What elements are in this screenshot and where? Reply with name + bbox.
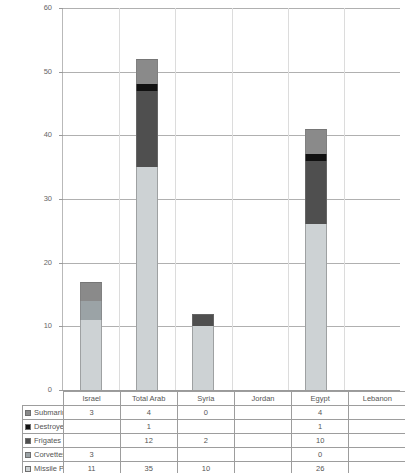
table-head: IsraelTotal ArabSyriaJordanEgyptLebanon [23, 392, 405, 406]
table-cell [234, 448, 291, 462]
y-axis: 0102030405060 [0, 0, 58, 395]
table-row: Corvettes30 [23, 448, 405, 462]
y-tick-label-30: 30 [44, 195, 52, 203]
table-cell: 1 [292, 420, 349, 434]
bar-egypt [305, 129, 327, 390]
bar-syria [192, 314, 214, 390]
legend-swatch-icon [25, 410, 31, 416]
table-cell [349, 420, 405, 434]
table-row: Frigates12210 [23, 434, 405, 448]
y-tick-label-20: 20 [44, 259, 52, 267]
table-cell: 0 [177, 406, 234, 420]
legend-cell-frigates: Frigates [23, 434, 64, 448]
table-cell [349, 462, 405, 473]
table-cell: 2 [177, 434, 234, 448]
table-cell: 35 [120, 462, 177, 473]
bar-segment-missile-patrol [136, 167, 158, 390]
bar-segment-frigates [136, 91, 158, 167]
legend-series-label: Destroyers [34, 422, 63, 431]
legend-swatch-icon [25, 466, 31, 472]
table-cell: 3 [63, 448, 120, 462]
table-cell [234, 406, 291, 420]
plot-area [62, 8, 400, 390]
stacked-bar-chart: 0102030405060 [0, 0, 405, 395]
bar-segment-submarines [136, 59, 158, 84]
legend-swatch-icon [25, 452, 31, 458]
table-cell: 4 [120, 406, 177, 420]
category-separator-2 [175, 8, 176, 390]
chart-page: 0102030405060 IsraelTotal ArabSyriaJorda… [0, 0, 405, 473]
category-separator-1 [119, 8, 120, 390]
table-row: Destroyers11 [23, 420, 405, 434]
legend-series-label: Missile Patrol [34, 464, 63, 473]
table-cell [349, 434, 405, 448]
bar-segment-missile-patrol [192, 326, 214, 390]
legend-cell-missile-patrol: Missile Patrol [23, 462, 64, 473]
table-cell: 1 [120, 420, 177, 434]
table-cell: 12 [120, 434, 177, 448]
y-tick-label-40: 40 [44, 131, 52, 139]
y-tick-40 [59, 135, 63, 136]
bar-segment-missile-patrol [80, 320, 102, 390]
table-cell [63, 420, 120, 434]
legend-cell-destroyers: Destroyers [23, 420, 64, 434]
legend-series-label: Frigates [34, 436, 61, 445]
table-cell [349, 448, 405, 462]
table-col-header-syria: Syria [177, 392, 234, 406]
bar-segment-submarines [80, 282, 102, 301]
table-cell: 4 [292, 406, 349, 420]
legend-series-label: Corvettes [34, 450, 63, 459]
legend-cell-submarines: Submarines [23, 406, 64, 420]
y-tick-10 [59, 326, 63, 327]
legend-swatch-icon [25, 438, 31, 444]
table-cell: 10 [177, 462, 234, 473]
legend-cell-corvettes: Corvettes [23, 448, 64, 462]
table-cell [234, 420, 291, 434]
table-cell [349, 406, 405, 420]
bar-segment-submarines [305, 129, 327, 154]
table-cell [234, 462, 291, 473]
table-header-row: IsraelTotal ArabSyriaJordanEgyptLebanon [23, 392, 405, 406]
table-cell [234, 434, 291, 448]
table-body: Submarines3404Destroyers11Frigates12210C… [23, 406, 405, 473]
y-tick-50 [59, 72, 63, 73]
table-cell: 10 [292, 434, 349, 448]
y-tick-20 [59, 263, 63, 264]
data-table: IsraelTotal ArabSyriaJordanEgyptLebanon … [22, 391, 405, 473]
bar-israel [80, 282, 102, 390]
table-cell: 0 [292, 448, 349, 462]
table-cell [177, 448, 234, 462]
legend-swatch-icon [25, 424, 31, 430]
table-cell: 26 [292, 462, 349, 473]
bar-total-arab [136, 59, 158, 390]
table-cell [63, 434, 120, 448]
table-col-header-israel: Israel [63, 392, 120, 406]
table-row: Missile Patrol11351026 [23, 462, 405, 473]
y-tick-label-60: 60 [44, 4, 52, 12]
table-cell: 3 [63, 406, 120, 420]
bar-segment-corvettes [80, 301, 102, 320]
bar-segment-missile-patrol [305, 224, 327, 390]
y-tick-30 [59, 199, 63, 200]
y-tick-label-50: 50 [44, 68, 52, 76]
table-col-header-jordan: Jordan [234, 392, 291, 406]
legend-series-label: Submarines [34, 408, 63, 417]
y-tick-60 [59, 8, 63, 9]
table-col-header-lebanon: Lebanon [349, 392, 405, 406]
category-separator-4 [288, 8, 289, 390]
table-cell [177, 420, 234, 434]
bar-segment-frigates [305, 161, 327, 225]
table-col-header-total-arab: Total Arab [120, 392, 177, 406]
table-cell [120, 448, 177, 462]
table-row: Submarines3404 [23, 406, 405, 420]
table-col-header-egypt: Egypt [292, 392, 349, 406]
table-corner-cell [23, 392, 64, 406]
table-cell: 11 [63, 462, 120, 473]
category-separator-5 [344, 8, 345, 390]
category-separator-3 [232, 8, 233, 390]
y-tick-label-10: 10 [44, 322, 52, 330]
bar-segment-frigates [192, 314, 214, 327]
